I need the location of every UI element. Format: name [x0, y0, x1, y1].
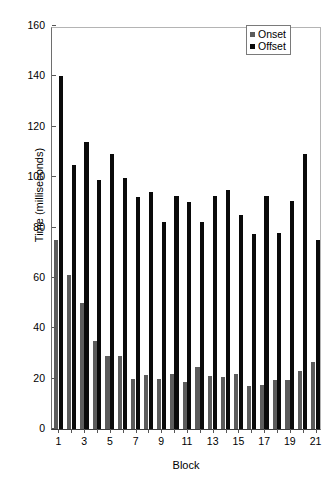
x-tick-mark [136, 429, 137, 433]
bar-onset-block-12 [195, 367, 199, 429]
x-tick-label: 5 [100, 435, 120, 447]
y-tick-label: 60 [33, 271, 45, 283]
bar-onset-block-14 [221, 377, 225, 429]
x-tick-mark [58, 429, 59, 433]
bar-onset-block-17 [260, 385, 264, 429]
bar-chart-figure: Time (milliseconds) 02040608010012014016… [0, 0, 332, 486]
bar-offset-block-6 [123, 178, 127, 429]
bar-offset-block-9 [162, 222, 166, 429]
x-tick-mark [110, 429, 111, 433]
bar-onset-block-18 [273, 380, 277, 429]
legend-item-onset: Onset [250, 28, 286, 40]
bar-onset-block-5 [105, 356, 109, 429]
bar-offset-block-3 [84, 142, 88, 429]
bar-offset-block-13 [213, 196, 217, 429]
x-tick-mark [251, 429, 252, 433]
x-tick-mark [97, 429, 98, 433]
bar-offset-block-2 [72, 165, 76, 429]
x-tick-mark [303, 429, 304, 433]
bar-onset-block-11 [183, 382, 187, 429]
bar-onset-block-6 [118, 356, 122, 429]
bar-offset-block-4 [97, 180, 101, 429]
bar-onset-block-15 [234, 374, 238, 429]
x-tick-mark [84, 429, 85, 433]
x-tick-mark [226, 429, 227, 433]
bar-onset-block-3 [80, 303, 84, 429]
x-tick-label: 21 [306, 435, 326, 447]
bar-offset-block-8 [149, 192, 153, 429]
bar-onset-block-8 [144, 375, 148, 429]
bar-onset-block-2 [67, 275, 71, 429]
bar-offset-block-19 [290, 201, 294, 429]
x-tick-label: 1 [48, 435, 68, 447]
bar-offset-block-1 [59, 76, 63, 429]
bar-onset-block-1 [54, 240, 58, 429]
bar-offset-block-16 [252, 234, 256, 429]
x-tick-label: 15 [228, 435, 248, 447]
y-tick-label: 160 [27, 19, 45, 31]
bar-onset-block-10 [170, 374, 174, 429]
x-tick-label: 7 [126, 435, 146, 447]
x-tick-label: 3 [74, 435, 94, 447]
y-tick-label: 140 [27, 69, 45, 81]
x-tick-mark [71, 429, 72, 433]
y-tick-label: 0 [39, 422, 45, 434]
x-tick-mark [277, 429, 278, 433]
y-tick-label: 80 [33, 221, 45, 233]
bar-offset-block-11 [187, 202, 191, 429]
chart-legend: Onset Offset [246, 25, 291, 55]
x-tick-mark [316, 429, 317, 433]
y-tick-label: 120 [27, 120, 45, 132]
bar-offset-block-15 [239, 215, 243, 429]
x-tick-mark [238, 429, 239, 433]
x-tick-label: 11 [177, 435, 197, 447]
legend-label-onset: Onset [258, 28, 286, 40]
x-tick-label: 9 [151, 435, 171, 447]
bar-onset-block-20 [298, 371, 302, 429]
bar-offset-block-5 [110, 154, 114, 429]
bar-offset-block-10 [174, 196, 178, 429]
bar-offset-block-21 [316, 240, 320, 429]
y-tick-label: 40 [33, 321, 45, 333]
bar-group [52, 28, 320, 429]
y-tick-label: 20 [33, 372, 45, 384]
x-tick-mark [264, 429, 265, 433]
bar-offset-block-7 [136, 197, 140, 429]
x-tick-label: 17 [254, 435, 274, 447]
legend-swatch-offset-icon [250, 44, 255, 49]
bar-offset-block-17 [264, 196, 268, 429]
bar-offset-block-20 [303, 154, 307, 429]
y-tick-mark [52, 25, 56, 26]
x-tick-label: 19 [280, 435, 300, 447]
plot-area: 020406080100120140160 13579111315171921 [51, 27, 321, 430]
bar-offset-block-18 [277, 233, 281, 429]
legend-label-offset: Offset [258, 40, 286, 52]
bar-onset-block-7 [131, 379, 135, 429]
x-tick-mark [187, 429, 188, 433]
x-tick-mark [290, 429, 291, 433]
legend-swatch-onset-icon [250, 32, 255, 37]
x-tick-mark [213, 429, 214, 433]
bar-offset-block-12 [200, 222, 204, 429]
x-tick-mark [174, 429, 175, 433]
legend-item-offset: Offset [250, 40, 286, 52]
x-tick-mark [148, 429, 149, 433]
bar-onset-block-4 [93, 341, 97, 429]
bar-onset-block-9 [157, 379, 161, 429]
x-tick-mark [200, 429, 201, 433]
y-tick-label: 100 [27, 170, 45, 182]
x-axis-title: Block [51, 459, 321, 471]
bar-onset-block-19 [285, 380, 289, 429]
bar-onset-block-21 [311, 362, 315, 429]
x-tick-mark [123, 429, 124, 433]
bar-onset-block-13 [208, 376, 212, 429]
x-tick-label: 13 [203, 435, 223, 447]
bar-onset-block-16 [247, 386, 251, 429]
x-tick-mark [161, 429, 162, 433]
bar-offset-block-14 [226, 190, 230, 429]
